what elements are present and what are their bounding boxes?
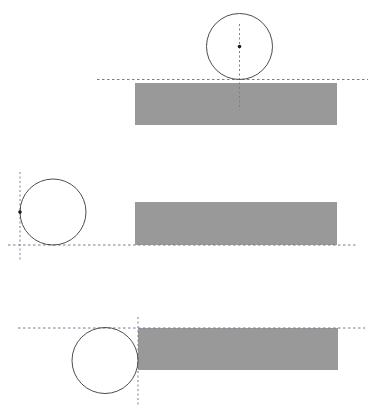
panel-top-rectangle (135, 83, 337, 125)
diagram-canvas (0, 0, 380, 410)
panel-middle-rectangle (135, 202, 337, 245)
panel-top-center-dot (238, 45, 242, 49)
panel-bottom-rectangle (138, 328, 338, 370)
panel-bottom (18, 317, 365, 405)
panel-middle-center-dot (18, 210, 22, 214)
panel-bottom-circle (72, 328, 138, 394)
alignment-diagram (0, 0, 380, 410)
panel-middle (8, 172, 358, 262)
panel-top (97, 14, 368, 126)
panel-middle-circle (20, 179, 86, 245)
